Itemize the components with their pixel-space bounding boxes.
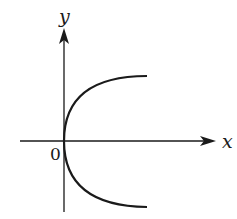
x-axis-label: x [222,130,233,152]
y-axis-label: y [58,5,70,27]
parabola-graph: y x 0 [0,0,237,219]
origin-label: 0 [50,144,61,164]
